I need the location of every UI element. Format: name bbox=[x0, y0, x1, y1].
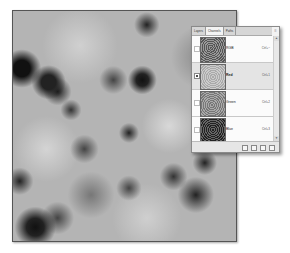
channel-shortcut: Ctrl+2 bbox=[262, 100, 270, 104]
tab-channels[interactable]: Channels bbox=[206, 27, 224, 35]
channel-row-green[interactable]: Green Ctrl+2 bbox=[192, 90, 273, 117]
channel-name: Green bbox=[226, 100, 236, 104]
channel-name: Blue bbox=[226, 127, 233, 131]
panel-scrollbar[interactable]: ▲ ▼ bbox=[273, 36, 279, 141]
panel-footer bbox=[192, 141, 279, 152]
new-channel-icon[interactable] bbox=[260, 145, 266, 151]
channel-name: Red bbox=[226, 73, 233, 77]
tab-layers[interactable]: Layers bbox=[192, 27, 206, 35]
eye-icon bbox=[196, 75, 198, 77]
channel-list: RGB Ctrl+~ Red Ctrl+1 Green Ctrl+2 Blue … bbox=[192, 36, 273, 144]
channel-thumbnail bbox=[200, 91, 226, 117]
save-selection-icon[interactable] bbox=[251, 145, 257, 151]
channel-shortcut: Ctrl+3 bbox=[262, 127, 270, 131]
delete-channel-icon[interactable] bbox=[269, 145, 275, 151]
load-selection-icon[interactable] bbox=[242, 145, 248, 151]
channel-row-blue[interactable]: Blue Ctrl+3 bbox=[192, 117, 273, 144]
channel-shortcut: Ctrl+~ bbox=[262, 46, 270, 50]
channel-thumbnail bbox=[200, 64, 226, 90]
channel-row-rgb[interactable]: RGB Ctrl+~ bbox=[192, 36, 273, 63]
channel-row-red[interactable]: Red Ctrl+1 bbox=[192, 63, 273, 90]
channel-shortcut: Ctrl+1 bbox=[262, 73, 270, 77]
tab-paths[interactable]: Paths bbox=[224, 27, 237, 35]
channel-name: RGB bbox=[226, 46, 234, 50]
channels-panel: Layers Channels Paths ≡ RGB Ctrl+~ Red C… bbox=[191, 26, 280, 153]
panel-tabs: Layers Channels Paths bbox=[192, 27, 272, 36]
channel-thumbnail bbox=[200, 37, 226, 63]
panel-menu-icon[interactable]: ≡ bbox=[273, 28, 278, 33]
scroll-up-icon[interactable]: ▲ bbox=[274, 36, 279, 41]
